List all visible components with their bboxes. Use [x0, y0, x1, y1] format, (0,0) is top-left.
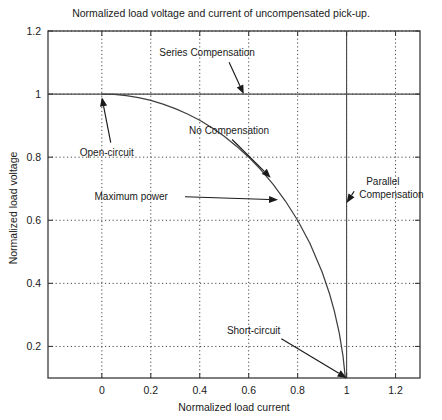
x-tick-label-0.4: 0.4: [192, 384, 207, 396]
chart-canvas: Normalized load voltage and current of u…: [0, 0, 442, 420]
x-tick-label-0.2: 0.2: [143, 384, 158, 396]
annotation-label-no-compensation: No Compensation: [189, 125, 269, 136]
y-tick-label-0.2: 0.2: [26, 340, 41, 352]
chart-title: Normalized load voltage and current of u…: [72, 7, 370, 19]
annotation-label-parallel-compensation-line2: Compensation: [359, 189, 423, 200]
x-tick-label-0.6: 0.6: [241, 384, 256, 396]
y-tick-label-1.2: 1.2: [26, 25, 41, 37]
figure-background: [0, 0, 442, 420]
x-tick-label-0.8: 0.8: [290, 384, 305, 396]
annotation-label-parallel-compensation-line1: Parallel: [366, 176, 399, 187]
y-tick-label-0.6: 0.6: [26, 214, 41, 226]
chart-figure: Normalized load voltage and current of u…: [0, 0, 442, 420]
y-tick-label-0.8: 0.8: [26, 151, 41, 163]
x-tick-label-1: 1: [344, 384, 350, 396]
x-tick-label-0: 0: [99, 384, 105, 396]
annotation-label-short-circuit: Short-circuit: [227, 325, 281, 336]
y-tick-label-0.4: 0.4: [26, 277, 41, 289]
y-axis-label: Normalized load voltage: [7, 152, 19, 265]
y-tick-label-1: 1: [35, 88, 41, 100]
annotation-label-series-compensation: Series Compensation: [159, 47, 255, 58]
annotation-label-maximum-power: Maximum power: [95, 191, 169, 202]
annotation-label-open-circuit: Open-circuit: [80, 147, 134, 158]
x-axis-label: Normalized load current: [178, 401, 290, 413]
x-tick-label-1.2: 1.2: [388, 384, 403, 396]
